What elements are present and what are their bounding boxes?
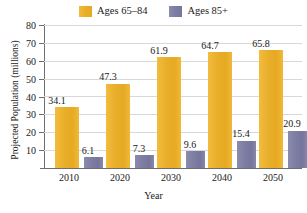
bar-ages-65-84-2040[interactable] <box>208 52 232 168</box>
value-label-ages-65-84-2010: 34.1 <box>40 96 74 106</box>
bar-ages-85-plus-2050[interactable] <box>288 131 307 168</box>
legend-label-ages-85-plus: Ages 85+ <box>187 6 228 17</box>
x-tick-label-2030: 2030 <box>151 173 191 183</box>
bar-ages-85-plus-2030[interactable] <box>186 151 205 168</box>
bar-ages-85-plus-2010[interactable] <box>84 157 103 168</box>
purple-square-icon <box>169 6 182 17</box>
legend-item-ages-65-84: Ages 65–84 <box>79 6 147 17</box>
bar-chart: Ages 65–84 Ages 85+ Projected Population… <box>0 0 307 213</box>
x-tick-label-2010: 2010 <box>49 173 89 183</box>
value-label-ages-65-84-2020: 47.3 <box>91 72 125 82</box>
x-axis-line <box>40 168 302 169</box>
gold-square-icon <box>79 6 92 17</box>
x-tick-label-2020: 2020 <box>100 173 140 183</box>
bar-ages-65-84-2010[interactable] <box>55 107 79 168</box>
x-tick-label-2040: 2040 <box>202 173 242 183</box>
y-tick-label-10: 10 <box>14 146 36 156</box>
bar-ages-65-84-2020[interactable] <box>106 84 130 169</box>
chart-legend: Ages 65–84 Ages 85+ <box>0 2 307 20</box>
y-tick-label-50: 50 <box>14 75 36 85</box>
value-label-ages-85-plus-2040: 15.4 <box>225 129 257 139</box>
bar-ages-85-plus-2040[interactable] <box>237 141 256 169</box>
bar-ages-85-plus-2020[interactable] <box>135 155 154 168</box>
value-label-ages-65-84-2040: 64.7 <box>193 41 227 51</box>
legend-item-ages-85-plus: Ages 85+ <box>169 6 228 17</box>
y-tick-label-80: 80 <box>14 21 36 31</box>
y-tick-label-70: 70 <box>14 39 36 49</box>
value-label-ages-85-plus-2020: 7.3 <box>123 144 155 154</box>
x-axis-title: Year <box>0 190 307 201</box>
value-label-ages-65-84-2030: 61.9 <box>142 46 176 56</box>
gridline-80 <box>44 25 302 26</box>
y-tick-label-30: 30 <box>14 110 36 120</box>
y-tick-label-20: 20 <box>14 128 36 138</box>
value-label-ages-85-plus-2030: 9.6 <box>174 140 206 150</box>
value-label-ages-85-plus-2010: 6.1 <box>72 146 104 156</box>
x-tick-label-2050: 2050 <box>253 173 293 183</box>
value-label-ages-65-84-2050: 65.8 <box>244 39 278 49</box>
value-label-ages-85-plus-2050: 20.9 <box>276 119 307 129</box>
legend-label-ages-65-84: Ages 65–84 <box>97 6 147 17</box>
bar-ages-65-84-2050[interactable] <box>259 50 283 168</box>
y-tick-label-60: 60 <box>14 57 36 67</box>
bar-ages-65-84-2030[interactable] <box>157 57 181 168</box>
y-tick-label-40: 40 <box>14 93 36 103</box>
